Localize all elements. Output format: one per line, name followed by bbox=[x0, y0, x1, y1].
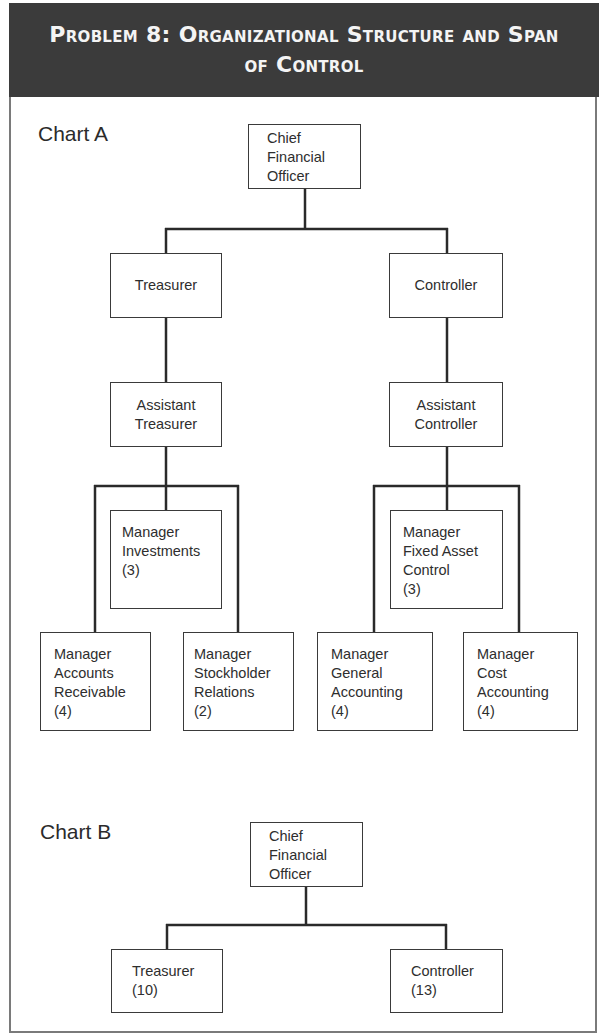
problem-header: Problem 8: Organizational Structure and … bbox=[9, 3, 599, 97]
node-text: (4) bbox=[54, 702, 150, 721]
node-text: (2) bbox=[194, 702, 293, 721]
node-text: General bbox=[331, 664, 432, 683]
node-controller-a: Controller bbox=[389, 253, 503, 318]
node-text: (13) bbox=[411, 981, 502, 1000]
node-treasurer-a: Treasurer bbox=[110, 253, 222, 318]
node-text: Controller bbox=[415, 276, 478, 295]
node-text: Officer bbox=[267, 167, 360, 186]
node-controller-b: Controller (13) bbox=[390, 949, 503, 1013]
node-text: Treasurer bbox=[135, 276, 197, 295]
node-chief-financial-officer-b: Chief Financial Officer bbox=[250, 822, 363, 887]
node-text: Relations bbox=[194, 683, 293, 702]
node-text: (3) bbox=[403, 580, 502, 599]
node-manager-stockholder-relations: Manager Stockholder Relations (2) bbox=[183, 632, 294, 731]
node-text: Cost bbox=[477, 664, 577, 683]
node-chief-financial-officer-a: Chief Financial Officer bbox=[248, 124, 361, 189]
header-title-line1: Problem 8: Organizational Structure and … bbox=[49, 20, 558, 50]
node-text: Accounts bbox=[54, 664, 150, 683]
node-manager-accounts-receivable: Manager Accounts Receivable (4) bbox=[40, 632, 151, 731]
node-text: Accounting bbox=[477, 683, 577, 702]
node-text: Treasurer bbox=[132, 962, 222, 981]
node-text: Controller bbox=[415, 415, 478, 434]
node-text: Officer bbox=[269, 865, 362, 884]
node-text: Control bbox=[403, 561, 502, 580]
header-title-line2: of Control bbox=[49, 50, 558, 80]
node-manager-fixed-asset-control: Manager Fixed Asset Control (3) bbox=[390, 510, 503, 609]
node-text: Manager bbox=[477, 645, 577, 664]
node-text: Manager bbox=[403, 523, 502, 542]
node-assistant-controller: Assistant Controller bbox=[389, 382, 503, 447]
node-text: Financial bbox=[269, 846, 362, 865]
node-manager-cost-accounting: Manager Cost Accounting (4) bbox=[463, 632, 578, 731]
node-text: Manager bbox=[331, 645, 432, 664]
node-treasurer-b: Treasurer (10) bbox=[111, 949, 223, 1013]
node-text: Controller bbox=[411, 962, 502, 981]
node-text: Investments bbox=[122, 542, 221, 561]
node-text: Chief bbox=[269, 827, 362, 846]
node-assistant-treasurer: Assistant Treasurer bbox=[110, 382, 222, 447]
node-text: (10) bbox=[132, 981, 222, 1000]
node-text: (4) bbox=[477, 702, 577, 721]
chart-b-label: Chart B bbox=[40, 820, 111, 844]
node-text: Stockholder bbox=[194, 664, 293, 683]
node-text: Assistant bbox=[137, 396, 196, 415]
node-text: Chief bbox=[267, 129, 360, 148]
node-text: Assistant bbox=[417, 396, 476, 415]
node-text: Treasurer bbox=[135, 415, 197, 434]
chart-a-label: Chart A bbox=[38, 122, 108, 146]
node-text: Manager bbox=[122, 523, 221, 542]
node-manager-general-accounting: Manager General Accounting (4) bbox=[317, 632, 433, 731]
node-text: Manager bbox=[194, 645, 293, 664]
node-text: Receivable bbox=[54, 683, 150, 702]
node-text: Manager bbox=[54, 645, 150, 664]
node-text: (4) bbox=[331, 702, 432, 721]
node-text: (3) bbox=[122, 561, 221, 580]
node-text: Accounting bbox=[331, 683, 432, 702]
node-text: Financial bbox=[267, 148, 360, 167]
node-manager-investments: Manager Investments (3) bbox=[110, 510, 222, 609]
node-text: Fixed Asset bbox=[403, 542, 502, 561]
